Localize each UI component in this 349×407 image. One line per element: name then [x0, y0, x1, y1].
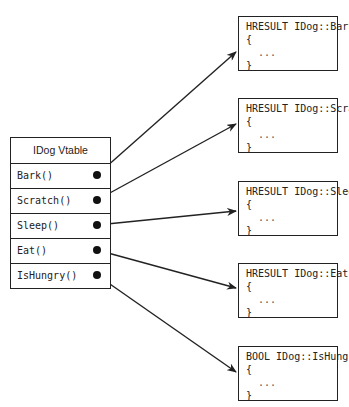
function-body: ... — [246, 376, 337, 389]
function-signature: HRESULT IDog::Eat — [246, 267, 337, 280]
close-brace: } — [246, 141, 337, 154]
open-brace: { — [246, 198, 337, 211]
function-signature: HRESULT IDog::Scratch — [246, 102, 337, 115]
close-brace: } — [246, 306, 337, 319]
function-box-ishungry: BOOL IDog::IsHungry { ... } — [238, 346, 338, 401]
pointer-dot-icon — [93, 221, 101, 229]
pointer-dot-icon — [93, 196, 101, 204]
function-body: ... — [246, 293, 337, 306]
close-brace: } — [246, 224, 337, 237]
function-signature: BOOL IDog::IsHungry — [246, 350, 337, 363]
open-brace: { — [246, 33, 337, 46]
function-box-sleep: HRESULT IDog::Sleep { ... } — [238, 181, 338, 236]
function-box-bark: HRESULT IDog::Bark { ... } — [238, 16, 338, 71]
open-brace: { — [246, 363, 337, 376]
function-body: ... — [246, 46, 337, 59]
function-signature: HRESULT IDog::Bark — [246, 20, 337, 33]
function-signature: HRESULT IDog::Sleep — [246, 185, 337, 198]
function-box-scratch: HRESULT IDog::Scratch { ... } — [238, 98, 338, 153]
pointer-dot-icon — [93, 246, 101, 254]
open-brace: { — [246, 280, 337, 293]
pointer-dot-icon — [93, 271, 101, 279]
open-brace: { — [246, 115, 337, 128]
close-brace: } — [246, 389, 337, 402]
pointer-dot-icon — [93, 171, 101, 179]
close-brace: } — [246, 59, 337, 72]
function-box-eat: HRESULT IDog::Eat { ... } — [238, 263, 338, 318]
function-body: ... — [246, 211, 337, 224]
function-body: ... — [246, 128, 337, 141]
